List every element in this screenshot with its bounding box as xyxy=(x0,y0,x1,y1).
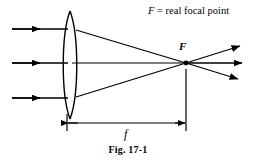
legend-equals: = xyxy=(154,5,165,16)
lower-refracted-ray xyxy=(76,63,186,97)
figure-container: F = real focal point F f Fig. 17-1 xyxy=(0,0,256,163)
legend-label: F = real focal point xyxy=(148,6,229,17)
focal-point-marker xyxy=(184,61,189,66)
lens-left-surface xyxy=(63,11,70,119)
lower-diverging-ray xyxy=(186,63,238,79)
incoming-parallel-rays xyxy=(12,29,68,98)
legend-description: real focal point xyxy=(166,5,230,16)
figure-caption: Fig. 17-1 xyxy=(0,145,256,155)
ray-diagram-svg xyxy=(0,0,256,163)
diverging-rays-after-focus xyxy=(186,46,242,79)
refracted-converging-rays xyxy=(72,30,186,97)
upper-diverging-ray xyxy=(186,46,240,63)
focal-point-label: F xyxy=(179,41,186,52)
focal-length-dimension xyxy=(67,69,186,131)
focal-length-label: f xyxy=(124,128,127,140)
lens-right-surface xyxy=(70,11,77,119)
biconvex-lens-icon xyxy=(63,11,77,119)
upper-refracted-ray xyxy=(76,30,186,63)
